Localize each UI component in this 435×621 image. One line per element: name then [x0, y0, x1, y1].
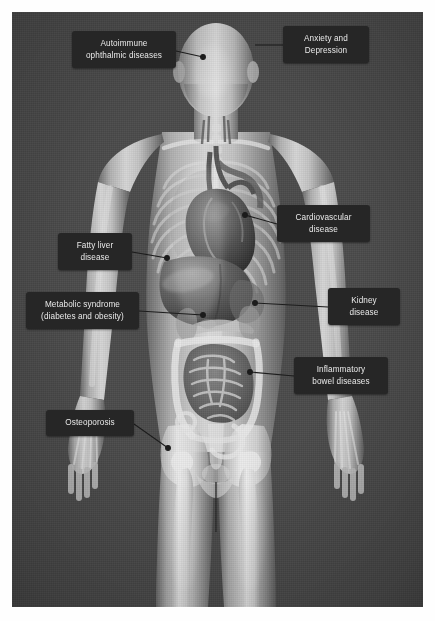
label-autoimmune-ophthalmic[interactable]: Autoimmune ophthalmic diseases: [72, 31, 176, 68]
label-fatty-liver-text: Fatty liver disease: [77, 240, 114, 263]
label-metabolic-syndrome[interactable]: Metabolic syndrome (diabetes and obesity…: [26, 292, 139, 329]
label-metabolic-syndrome-text: Metabolic syndrome (diabetes and obesity…: [41, 299, 124, 322]
label-kidney-disease-text: Kidney disease: [350, 295, 379, 318]
label-osteoporosis[interactable]: Osteoporosis: [46, 410, 134, 436]
disease-anatomy-figure: Autoimmune ophthalmic diseasesAnxiety an…: [0, 0, 435, 621]
label-inflammatory-bowel[interactable]: Inflammatory bowel diseases: [294, 357, 388, 394]
label-kidney-disease[interactable]: Kidney disease: [328, 288, 400, 325]
label-inflammatory-bowel-text: Inflammatory bowel diseases: [312, 364, 369, 387]
label-autoimmune-ophthalmic-text: Autoimmune ophthalmic diseases: [86, 38, 162, 61]
label-fatty-liver[interactable]: Fatty liver disease: [58, 233, 132, 270]
label-cardiovascular[interactable]: Cardiovascular disease: [277, 205, 370, 242]
label-anxiety-depression[interactable]: Anxiety and Depression: [283, 26, 369, 63]
label-cardiovascular-text: Cardiovascular disease: [295, 212, 351, 235]
label-osteoporosis-text: Osteoporosis: [65, 417, 114, 428]
label-anxiety-depression-text: Anxiety and Depression: [304, 33, 348, 56]
